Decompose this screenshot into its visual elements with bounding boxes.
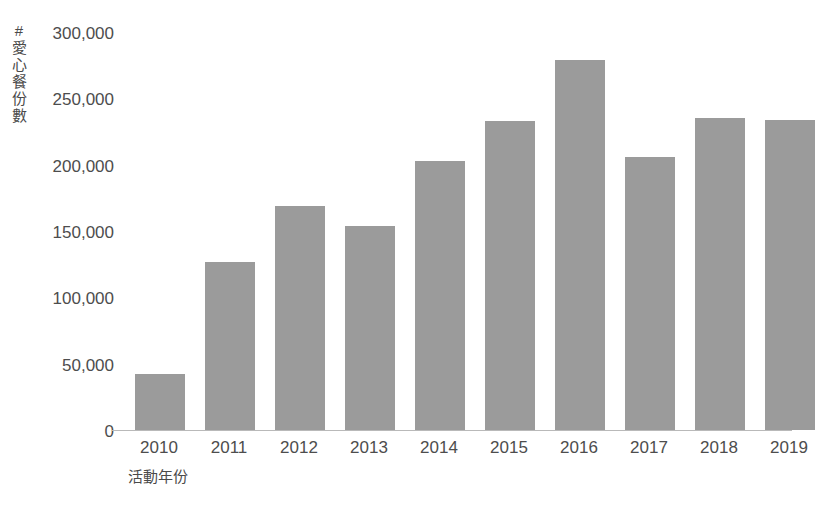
y-axis-title-char: # (6, 22, 32, 39)
bar-slot (754, 10, 819, 430)
bar-slot (194, 10, 264, 430)
bar-slot (334, 10, 404, 430)
y-axis-tick-label: 50,000 (62, 356, 114, 373)
x-axis-tick-label: 2019 (754, 438, 819, 458)
y-axis-title-char: 餐 (6, 73, 32, 90)
y-axis-title: #愛心餐份數 (6, 22, 32, 124)
bar[interactable] (695, 118, 745, 430)
bar-slot (544, 10, 614, 430)
x-axis-tick-labels: 2010201120122013201420152016201720182019 (112, 438, 792, 462)
x-axis-tick-label: 2012 (264, 438, 334, 458)
plot-area (112, 10, 792, 431)
y-axis-tick-label: 100,000 (53, 290, 114, 307)
bar-slot (614, 10, 684, 430)
y-axis-tick-label: 300,000 (53, 25, 114, 42)
y-axis-title-char: 份 (6, 90, 32, 107)
y-axis-tick-label: 150,000 (53, 224, 114, 241)
y-axis-title-char: 心 (6, 56, 32, 73)
bar[interactable] (275, 206, 325, 430)
x-axis-tick-label: 2015 (474, 438, 544, 458)
x-axis-tick-label: 2014 (404, 438, 474, 458)
bar-slot (124, 10, 194, 430)
x-axis-tick-label: 2010 (124, 438, 194, 458)
bar[interactable] (625, 157, 675, 430)
bar[interactable] (205, 262, 255, 430)
bar[interactable] (345, 226, 395, 430)
y-axis-tick-label: 200,000 (53, 157, 114, 174)
x-axis-tick-label: 2016 (544, 438, 614, 458)
bar[interactable] (415, 161, 465, 430)
bar[interactable] (485, 121, 535, 430)
x-axis-tick-label: 2017 (614, 438, 684, 458)
y-axis-tick-label: 250,000 (53, 91, 114, 108)
x-axis-line (112, 430, 792, 431)
x-axis-title: 活動年份 (128, 468, 188, 486)
bar[interactable] (135, 374, 185, 430)
bar-slot (404, 10, 474, 430)
bar-slot (474, 10, 544, 430)
y-axis-tick-labels: 050,000100,000150,000200,000250,000300,0… (30, 0, 122, 440)
bar-slot (264, 10, 334, 430)
x-axis-tick-label: 2011 (194, 438, 264, 458)
bar[interactable] (765, 120, 815, 430)
y-axis-title-char: 數 (6, 107, 32, 124)
x-axis-tick-label: 2013 (334, 438, 404, 458)
bar[interactable] (555, 60, 605, 430)
bar-slot (684, 10, 754, 430)
x-axis-tick-label: 2018 (684, 438, 754, 458)
y-axis-title-char: 愛 (6, 39, 32, 56)
